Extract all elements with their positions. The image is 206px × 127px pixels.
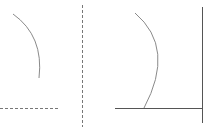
left-arc <box>13 14 40 78</box>
right-panel <box>115 7 203 123</box>
diagram-canvas <box>0 0 206 127</box>
left-panel <box>0 14 59 109</box>
right-arc <box>135 13 158 108</box>
